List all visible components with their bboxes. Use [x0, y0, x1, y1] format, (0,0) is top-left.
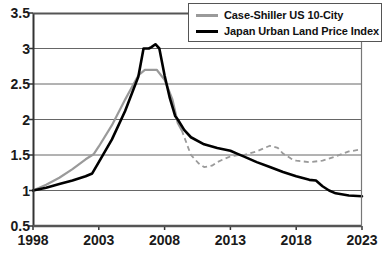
series-line-solid-segment — [33, 70, 182, 191]
x-axis-tick-label: 2013 — [204, 233, 256, 247]
y-axis-tick-label: 2 — [0, 113, 30, 127]
gridlines — [29, 13, 362, 226]
x-axis-tick-label: 2018 — [270, 233, 322, 247]
y-axis-tick-label: 3 — [0, 42, 30, 56]
legend-swatch-icon — [196, 30, 218, 33]
legend: Case-Shiller US 10-City Japan Urban Land… — [188, 3, 382, 42]
y-axis-tick-label: 2.5 — [0, 77, 30, 91]
x-axis-tick-label: 1998 — [7, 233, 59, 247]
line-chart: 3.532.521.510.5 199820032008201320182023… — [0, 0, 388, 269]
legend-item-japan: Japan Urban Land Price Index — [189, 23, 381, 39]
y-axis-tick-label: 3.5 — [0, 6, 30, 20]
series-lines — [33, 44, 362, 196]
series-line — [33, 44, 362, 196]
y-axis-tick-label: 1.5 — [0, 148, 30, 162]
series-line-dashed-segment — [182, 130, 362, 167]
legend-item-case-shiller: Case-Shiller US 10-City — [189, 7, 381, 23]
x-axis-tick-label: 2008 — [139, 233, 191, 247]
y-axis-tick-label: 0.5 — [0, 219, 30, 233]
legend-label: Japan Urban Land Price Index — [224, 25, 379, 37]
x-axis-tick-label: 2003 — [73, 233, 125, 247]
legend-label: Case-Shiller US 10-City — [224, 9, 343, 21]
x-axis-tick-label: 2023 — [336, 233, 388, 247]
y-axis-tick-label: 1 — [0, 184, 30, 198]
legend-swatch-icon — [196, 14, 218, 17]
